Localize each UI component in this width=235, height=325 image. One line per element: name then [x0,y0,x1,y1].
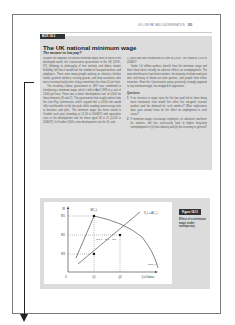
header-rule [40,32,212,33]
arrow-down-icon [20,314,28,322]
box-column-left: Despite the adoption of national minimum… [43,57,121,169]
svg-text:Q2: Q2 [118,275,122,279]
svg-text:MC_L: MC_L [91,208,98,212]
paragraph: The incoming Labour government in 1997 w… [43,85,121,125]
figure-caption: Effect of a minimum wage under monopsony [179,218,207,229]
svg-text:W1: W1 [61,214,65,218]
scroll-indicator-line [24,82,25,316]
question-text: If an increase in wage rates for the low… [130,97,207,117]
question-number: 1 [127,97,128,117]
svg-text:S_L = AC_L: S_L = AC_L [144,211,158,215]
question-text: If minimum wages encourage employers to … [130,118,207,130]
box-tag: BOX 18.3 [40,34,65,39]
questions-heading: Questions [127,92,207,96]
running-head: UK LOW PAY AND DISCRIMINATION383 [138,24,192,27]
mc-curve [76,216,94,258]
question-item: 1 If an increase in wage rates for the l… [127,97,207,117]
svg-text:O: O [65,275,67,279]
scroll-indicator-tick [24,82,34,83]
svg-text:W3: W3 [61,252,65,256]
box-column-right: 17-year-olds was introduced at a rate of… [127,57,207,169]
svg-text:MC_L = S_L = W2: MC_L = S_L = W2 [96,238,116,241]
question-item: 2 If minimum wages encourage employers t… [127,118,207,130]
running-head-text: UK LOW PAY AND DISCRIMINATION [138,24,185,27]
svg-text:W: W [62,207,65,211]
chart-svg: W W1 W2 W3 O Q1 Q2 Q of labour MC_L S_L … [44,202,172,284]
svg-text:W2: W2 [61,233,65,237]
svg-text:MRP_L: MRP_L [148,263,157,266]
box-subtitle: The answer to low pay? [43,51,81,55]
question-number: 2 [127,118,128,130]
figure-label: Figure 18.11 [179,209,201,215]
monopsony-chart: W W1 W2 W3 O Q1 Q2 Q of labour MC_L S_L … [44,202,172,284]
paragraph: Some 1.6 million workers benefit from th… [127,65,207,89]
page-number: 383 [188,24,193,27]
box-title: The UK national minimum wage [43,44,137,51]
svg-text:Q of labour: Q of labour [142,275,155,279]
svg-text:Q1: Q1 [92,275,96,279]
paragraph: 17-year-olds was introduced at a rate of… [127,57,207,65]
paragraph: Despite the adoption of national minimum… [43,57,121,85]
